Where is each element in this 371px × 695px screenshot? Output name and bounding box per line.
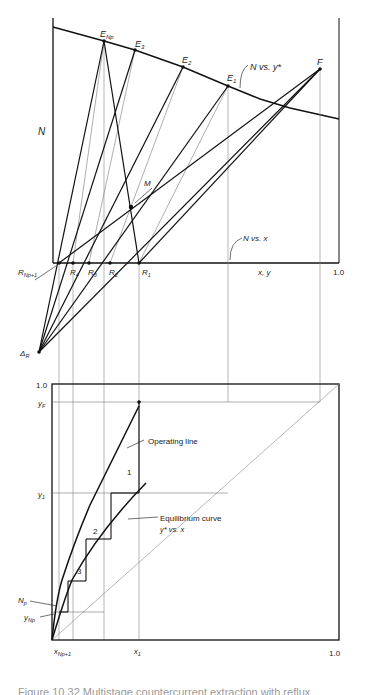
operating-line-label: Operating line — [148, 437, 198, 446]
equilibrium-curve — [52, 483, 146, 640]
label-e2: E2 — [182, 55, 192, 66]
feed-point — [137, 400, 141, 404]
np-pointer — [30, 601, 57, 606]
stage-3-label: 3 — [77, 567, 82, 576]
lower-y-max-label: 1.0 — [36, 381, 48, 390]
lower-labels: 1.0 yF y1 Operating line Equilibrium cur… — [18, 381, 341, 658]
label-f: F — [317, 57, 323, 67]
rnp1-pointer — [35, 266, 56, 280]
label-enp: ENp — [100, 29, 114, 40]
stage-1-label: 1 — [127, 468, 132, 477]
label-y1: y1 — [37, 490, 45, 500]
label-r2: R2 — [109, 268, 118, 278]
label-ynp: yNp — [23, 613, 35, 623]
equilibrium-curve-label: Equilibrium curve — [160, 514, 222, 523]
diagonal-line — [52, 384, 339, 640]
label-r3: R3 — [88, 268, 98, 278]
ponchon-savarit-diagram: N ENp E3 E2 E1 F N vs. y* M N vs. x x, y… — [0, 0, 371, 695]
points — [37, 39, 322, 354]
horizontal-projections — [52, 402, 320, 612]
equilibrium-curve-sublabel: y* vs. x — [159, 525, 184, 534]
figure-caption: Figure 10.32 Multistage countercurrent e… — [18, 686, 310, 695]
label-delta-r: ΔR — [19, 349, 29, 359]
label-r1: R1 — [142, 268, 151, 278]
label-x1: x1 — [133, 647, 141, 657]
projection-lines — [59, 41, 320, 640]
extract-curve-pointer — [240, 65, 248, 88]
upper-labels: N ENp E3 E2 E1 F N vs. y* M N vs. x x, y… — [18, 29, 345, 359]
label-yf: yF — [37, 399, 46, 409]
label-rnp1: RNp+1 — [18, 268, 37, 278]
stage-2-label: 2 — [93, 527, 98, 536]
label-m: M — [144, 179, 151, 188]
stage-steps — [59, 402, 139, 612]
operating-line-pointer — [127, 440, 144, 448]
raffinate-curve-pointer — [230, 238, 242, 260]
label-np: Np — [18, 596, 27, 606]
label-e3: E3 — [135, 39, 145, 50]
equilibrium-pointer — [128, 517, 158, 519]
upper-panel — [35, 18, 339, 640]
lower-x-max-label: 1.0 — [329, 649, 341, 658]
operating-line — [52, 406, 139, 640]
delta-lines — [39, 41, 320, 352]
label-r4: R4 — [70, 268, 79, 278]
y-axis-label-n: N — [38, 126, 46, 137]
lower-panel — [30, 384, 339, 640]
label-n-vs-x: N vs. x — [243, 234, 268, 243]
upper-x-max-label: 1.0 — [333, 268, 345, 277]
tie-lines — [73, 41, 228, 263]
label-n-vs-ystar: N vs. y* — [250, 62, 282, 72]
extract-curve — [53, 27, 339, 119]
label-x-np1: xNp+1 — [53, 647, 71, 657]
label-e1: E1 — [227, 73, 236, 84]
x-axis-label: x, y — [257, 268, 271, 277]
